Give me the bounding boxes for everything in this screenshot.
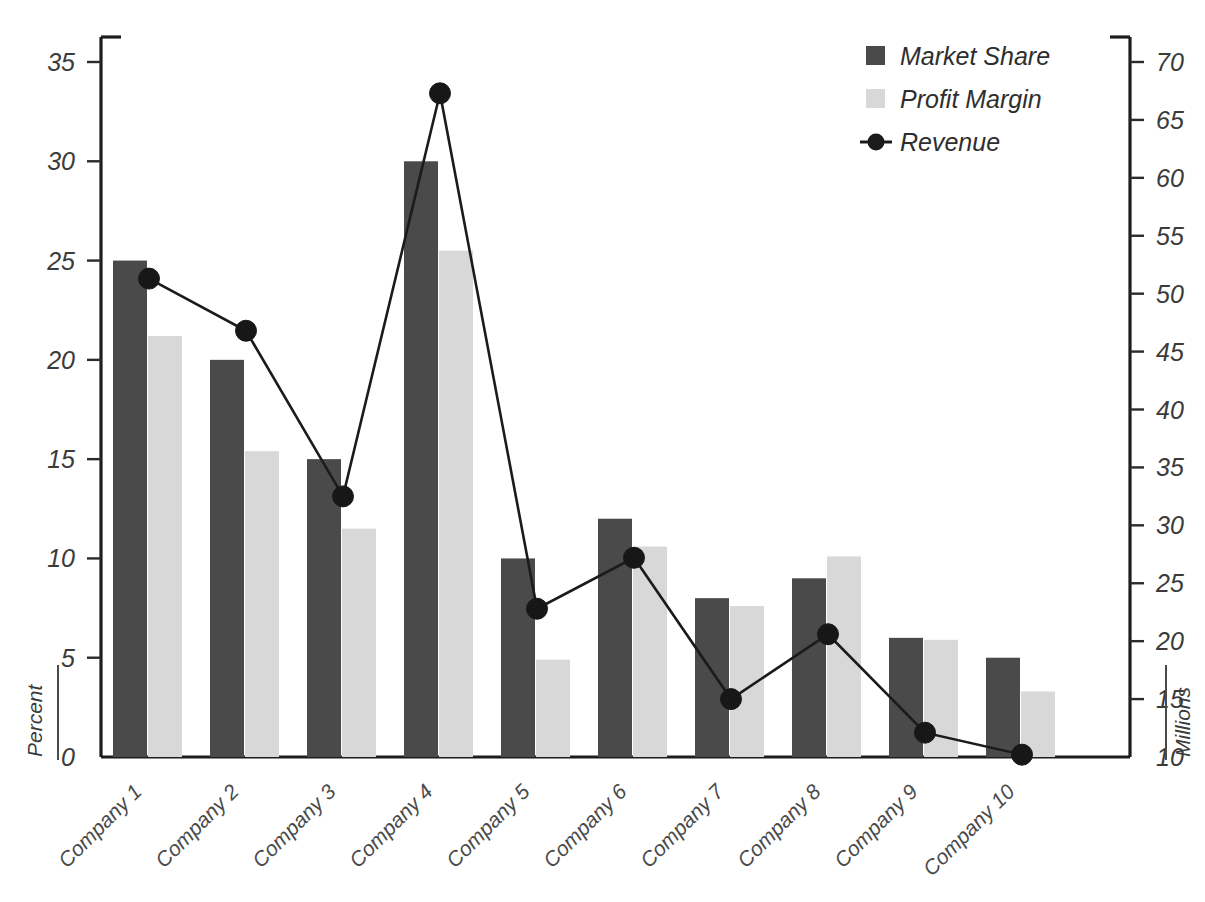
bar-profit-margin — [633, 547, 667, 757]
revenue-marker — [236, 320, 257, 341]
revenue-marker — [721, 689, 742, 710]
bars-group — [113, 161, 1055, 757]
bar-market-share — [210, 360, 244, 757]
x-axis-label: Company 2 — [151, 779, 243, 871]
left-tick-label: 25 — [46, 247, 75, 275]
x-axis-label: Company 3 — [248, 779, 340, 871]
chart-container: 0510152025303510152025303540455055606570… — [0, 0, 1205, 902]
bar-market-share — [113, 261, 147, 757]
bar-market-share — [404, 161, 438, 757]
right-tick-label: 50 — [1156, 280, 1184, 308]
right-tick-label: 40 — [1156, 396, 1184, 424]
right-tick-label: 30 — [1156, 511, 1184, 539]
revenue-marker — [333, 486, 354, 507]
right-tick-label: 60 — [1156, 164, 1184, 192]
left-axis-title: Percent — [23, 683, 46, 757]
left-tick-label: 20 — [46, 346, 75, 374]
x-axis-label: Company 4 — [345, 780, 437, 872]
revenue-marker — [430, 83, 451, 104]
right-tick-label: 20 — [1155, 627, 1184, 655]
x-axis-label: Company 1 — [54, 780, 146, 872]
revenue-marker — [624, 547, 645, 568]
left-tick-label: 5 — [61, 644, 75, 672]
right-tick-label: 55 — [1156, 222, 1184, 250]
x-axis-labels: Company 1Company 2Company 3Company 4Comp… — [54, 779, 1019, 880]
bar-profit-margin — [439, 251, 473, 757]
bar-market-share — [986, 658, 1020, 757]
bar-market-share — [792, 578, 826, 757]
bar-profit-margin — [245, 451, 279, 757]
left-tick-label: 15 — [47, 445, 75, 473]
legend: Market ShareProfit MarginRevenue — [860, 42, 1050, 156]
x-axis-label: Company 5 — [442, 779, 534, 871]
legend-label-revenue: Revenue — [900, 128, 1000, 156]
x-axis-label: Company 9 — [830, 779, 922, 871]
left-tick-label: 30 — [47, 147, 75, 175]
bar-profit-margin — [148, 336, 182, 757]
bar-profit-margin — [536, 660, 570, 757]
right-axis-title: Millions — [1171, 686, 1194, 757]
x-axis-label: Company 8 — [733, 779, 825, 871]
legend-label-market-share: Market Share — [900, 42, 1050, 70]
bar-market-share — [501, 558, 535, 757]
legend-swatch-market-share — [866, 46, 885, 65]
x-axis-label: Company 6 — [539, 779, 631, 871]
legend-marker-revenue — [868, 134, 885, 151]
left-tick-label: 10 — [47, 544, 75, 572]
revenue-marker — [818, 624, 839, 645]
bar-market-share — [695, 598, 729, 757]
right-tick-label: 65 — [1156, 106, 1184, 134]
revenue-marker — [139, 268, 160, 289]
right-tick-label: 70 — [1156, 48, 1184, 76]
right-tick-label: 35 — [1156, 453, 1184, 481]
left-tick-label: 35 — [47, 48, 75, 76]
revenue-marker — [915, 722, 936, 743]
right-tick-label: 45 — [1156, 338, 1184, 366]
revenue-marker — [527, 598, 548, 619]
legend-swatch-profit-margin — [866, 89, 885, 108]
combo-chart: 0510152025303510152025303540455055606570… — [0, 0, 1205, 902]
right-tick-label: 25 — [1155, 569, 1184, 597]
legend-label-profit-margin: Profit Margin — [900, 85, 1042, 113]
revenue-marker — [1012, 744, 1033, 765]
x-axis-label: Company 7 — [636, 779, 729, 872]
bar-profit-margin — [827, 556, 861, 757]
bar-profit-margin — [342, 529, 376, 757]
x-axis-label: Company 10 — [918, 779, 1019, 880]
left-tick-label: 0 — [61, 743, 75, 771]
